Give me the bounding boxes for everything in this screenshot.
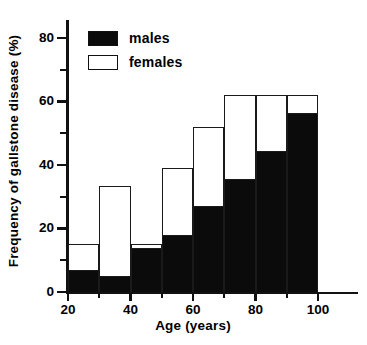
y-tick-label: 80 — [8, 30, 54, 45]
y-tick-major — [57, 37, 66, 40]
x-tick-minor — [98, 292, 100, 298]
x-tick-minor — [286, 292, 288, 298]
x-tick-major — [67, 292, 70, 301]
y-tick-major — [57, 164, 66, 167]
bar-segment-males — [131, 248, 162, 292]
x-tick-major — [317, 292, 320, 301]
bar-segment-males — [256, 151, 287, 292]
y-tick-minor — [60, 259, 66, 261]
x-tick-major — [129, 292, 132, 301]
bar-segment-males — [68, 270, 99, 292]
x-tick-label: 100 — [298, 302, 338, 317]
x-tick-major — [192, 292, 195, 301]
x-axis-label: Age (years) — [68, 318, 318, 333]
bar-segment-males — [224, 179, 255, 292]
y-tick-label: 0 — [8, 284, 54, 299]
legend-swatch-males — [88, 31, 118, 46]
y-tick-major — [57, 227, 66, 230]
y-tick-major — [57, 291, 66, 294]
legend: malesfemales — [88, 27, 183, 75]
bar-segment-males — [162, 235, 193, 292]
legend-label: females — [129, 54, 183, 70]
y-tick-label: 20 — [8, 220, 54, 235]
y-tick-minor — [60, 132, 66, 134]
y-axis-label: Frequency of gallstone disease (%) — [0, 6, 26, 296]
x-tick-minor — [223, 292, 225, 298]
y-tick-minor — [60, 69, 66, 71]
legend-swatch-females — [88, 55, 118, 70]
bar-group — [287, 22, 318, 292]
bar-segment-males — [287, 113, 318, 292]
x-tick-minor — [161, 292, 163, 298]
bar-segment-males — [193, 206, 224, 292]
legend-item: females — [88, 51, 183, 73]
bar-group — [193, 22, 224, 292]
y-tick-major — [57, 100, 66, 103]
legend-item: males — [88, 27, 183, 49]
bar-group — [256, 22, 287, 292]
x-tick-label: 60 — [173, 302, 213, 317]
legend-label: males — [129, 30, 170, 46]
y-tick-minor — [60, 196, 66, 198]
bar-segment-males — [99, 276, 130, 292]
gallstone-frequency-chart: Frequency of gallstone disease (%) 02040… — [0, 0, 367, 345]
y-tick-label: 60 — [8, 93, 54, 108]
bar-group — [224, 22, 255, 292]
x-tick-label: 40 — [111, 302, 151, 317]
x-tick-major — [254, 292, 257, 301]
y-tick-label: 40 — [8, 157, 54, 172]
x-tick-label: 80 — [236, 302, 276, 317]
x-tick-label: 20 — [48, 302, 88, 317]
